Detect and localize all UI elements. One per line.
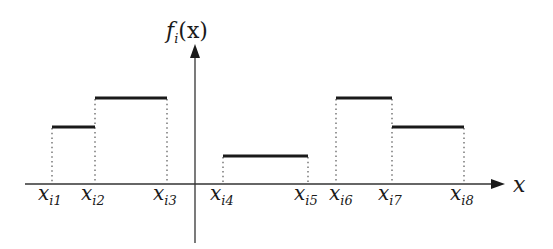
label-x-i4: xi4: [210, 181, 234, 208]
y-axis-arrow-icon: [190, 44, 200, 58]
label-x-i6: xi6: [329, 181, 353, 208]
label-x-i1: xi1: [38, 181, 62, 208]
label-x-i3: xi3: [153, 181, 177, 208]
breakpoint-labels: xi1 xi2 xi3 xi4 xi5 xi6 xi7 xi8: [38, 181, 474, 208]
function-segments: [52, 98, 464, 156]
piecewise-function-diagram: fi(x) x xi1 xi2 xi3 xi4 xi5 xi6 xi7 xi8: [0, 0, 553, 249]
dotted-guides: [52, 99, 464, 183]
x-axis-label: x: [513, 172, 526, 197]
y-axis-label: fi(x): [164, 18, 208, 46]
label-x-i7: xi7: [378, 181, 402, 208]
label-x-i5: xi5: [294, 181, 318, 208]
label-x-i8: xi8: [450, 181, 474, 208]
x-axis-arrow-icon: [491, 179, 505, 189]
label-x-i2: xi2: [81, 181, 105, 208]
